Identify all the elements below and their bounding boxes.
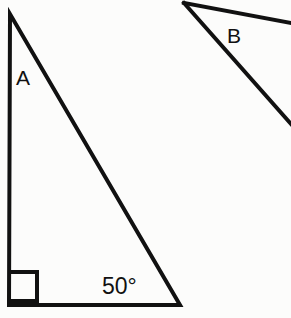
triangle-b-label: B — [227, 24, 241, 47]
triangle-a-outline — [9, 14, 180, 305]
triangle-a-angle-label: 50° — [102, 273, 137, 299]
triangle-a-label: A — [16, 66, 30, 89]
triangle-a: A 50° — [9, 14, 180, 305]
geometry-figure: A 50° B — [0, 0, 291, 318]
right-angle-marker-icon — [9, 272, 37, 301]
diagram-canvas: A 50° B — [0, 0, 291, 318]
triangle-b: B — [184, 3, 291, 124]
